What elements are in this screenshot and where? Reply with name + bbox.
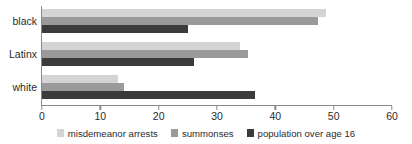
bar-latinx-population-over-age-16 (42, 58, 194, 66)
x-tick-label: 0 (39, 110, 45, 122)
bar-white-misdemeanor-arrests (42, 75, 118, 83)
category-label-latinx: Latinx (0, 49, 37, 60)
bar-latinx-misdemeanor-arrests (42, 42, 240, 50)
bar-black-population-over-age-16 (42, 25, 188, 33)
bar-black-misdemeanor-arrests (42, 9, 326, 17)
bar-white-population-over-age-16 (42, 91, 255, 99)
legend-label: population over age 16 (258, 128, 356, 139)
legend-swatch-icon (247, 129, 254, 137)
bar-group-latinx (42, 39, 392, 72)
x-tick-label: 60 (386, 110, 398, 122)
x-tick-50: 50 (333, 106, 334, 110)
category-axis-labels: black Latinx white (0, 6, 37, 105)
x-tick-label: 40 (269, 110, 281, 122)
x-tick-40: 40 (275, 106, 276, 110)
plot-area (42, 6, 392, 105)
bar-white-summonses (42, 83, 124, 91)
bar-black-summonses (42, 17, 318, 25)
legend-swatch-icon (57, 129, 64, 137)
bar-chart: black Latinx white 0102030405060 misdeme… (0, 0, 412, 144)
x-tick-label: 50 (328, 110, 340, 122)
legend-swatch-icon (171, 129, 178, 137)
legend-label: misdemeanor arrests (68, 128, 158, 139)
bar-latinx-summonses (42, 50, 248, 58)
legend-item-summonses[interactable]: summonses (171, 128, 234, 139)
x-tick-label: 10 (94, 110, 106, 122)
legend-item-population-over-age-16[interactable]: population over age 16 (247, 128, 356, 139)
bar-group-white (42, 72, 392, 105)
legend-item-misdemeanor-arrests[interactable]: misdemeanor arrests (57, 128, 158, 139)
x-tick-10: 10 (100, 106, 101, 110)
category-label-black: black (0, 16, 37, 27)
x-tick-label: 20 (153, 110, 165, 122)
x-tick-60: 60 (391, 106, 392, 110)
bar-group-black (42, 6, 392, 39)
x-tick-30: 30 (216, 106, 217, 110)
category-label-white: white (0, 82, 37, 93)
chart-legend: misdemeanor arrestssummonsespopulation o… (0, 126, 412, 140)
x-tick-20: 20 (158, 106, 159, 110)
x-tick-0: 0 (41, 106, 42, 110)
legend-label: summonses (182, 128, 234, 139)
x-axis-ticks: 0102030405060 (42, 106, 392, 128)
x-tick-label: 30 (211, 110, 223, 122)
